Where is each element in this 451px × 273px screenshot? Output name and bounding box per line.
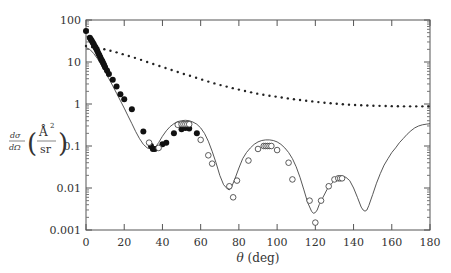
open-data-point	[246, 158, 252, 164]
svg-text:dΩ: dΩ	[9, 143, 21, 152]
dotted-curve-point	[238, 88, 240, 90]
theory-curve	[86, 48, 430, 214]
dotted-curve-point	[195, 77, 197, 79]
dotted-curve-point	[378, 105, 380, 107]
open-data-point	[186, 121, 192, 127]
x-tick-label: 80	[232, 236, 246, 249]
dotted-curve-point	[213, 82, 215, 84]
x-tick-label: 60	[194, 236, 208, 249]
open-data-point	[206, 153, 212, 159]
dotted-curve-point	[140, 59, 142, 61]
open-data-point	[269, 143, 275, 149]
open-data-point	[234, 178, 240, 184]
y-tick-label: 1	[74, 98, 81, 111]
dotted-curve-point	[201, 78, 203, 80]
svg-text:Å: Å	[38, 124, 48, 139]
open-data-point	[339, 176, 345, 182]
dotted-curve-point	[323, 102, 325, 104]
dotted-curve-point	[85, 45, 87, 47]
svg-text:(: (	[27, 128, 37, 158]
dotted-curve-point	[109, 50, 111, 52]
y-tick-label: 0.01	[57, 182, 82, 195]
x-tick-label: 40	[155, 236, 169, 249]
x-axis-ticks: 020406080100120140160180	[83, 20, 441, 249]
dotted-curve-point	[342, 103, 344, 105]
dotted-curve-point	[115, 51, 117, 53]
x-tick-label: 120	[305, 236, 326, 249]
dotted-curve-point	[391, 105, 393, 107]
filled-data-point	[163, 140, 169, 146]
filled-data-point	[171, 130, 177, 136]
dotted-curve-point	[384, 105, 386, 107]
dotted-curve-point	[311, 100, 313, 102]
cross-section-chart: 0.0010.010.1110100 020406080100120140160…	[0, 0, 451, 273]
dotted-curve-point	[348, 103, 350, 105]
y-axis-ticks: 0.0010.010.1110100	[50, 14, 431, 237]
dotted-curve-point	[354, 104, 356, 106]
dotted-curve-point	[128, 55, 130, 57]
dotted-curve-point	[409, 105, 411, 107]
dotted-curve-point	[121, 53, 123, 55]
filled-data-point	[129, 106, 135, 112]
dotted-curve-point	[207, 80, 209, 82]
x-tick-label: 0	[83, 236, 90, 249]
dotted-curve-point	[317, 101, 319, 103]
open-data-point	[290, 177, 296, 183]
dotted-curve-point	[305, 100, 307, 102]
data-series	[83, 28, 430, 225]
svg-text:sr: sr	[40, 143, 52, 156]
dotted-curve-point	[372, 105, 374, 107]
y-axis-label: dσ dΩ ( Å 2 sr )	[9, 122, 68, 158]
x-tick-label: 100	[267, 236, 288, 249]
open-data-point	[326, 183, 332, 189]
open-data-point	[146, 140, 152, 146]
filled-data-point	[194, 130, 200, 136]
svg-text:dσ: dσ	[10, 131, 21, 140]
dotted-curve-point	[158, 65, 160, 67]
dotted-curve-point	[299, 99, 301, 101]
filled-data-point	[83, 28, 89, 34]
dotted-curve-point	[262, 94, 264, 96]
open-data-point	[286, 160, 292, 166]
dotted-curve-point	[183, 73, 185, 75]
x-tick-label: 20	[117, 236, 131, 249]
dotted-curve-point	[256, 92, 258, 94]
open-data-point	[313, 220, 319, 226]
open-data-point	[230, 195, 236, 201]
dotted-curve-point	[250, 91, 252, 93]
x-tick-label: 140	[343, 236, 364, 249]
dotted-curve-point	[134, 57, 136, 59]
dotted-curve-point	[244, 90, 246, 92]
x-tick-label: 160	[381, 236, 402, 249]
filled-data-point	[106, 71, 112, 77]
dotted-curve-point	[146, 61, 148, 63]
dotted-curve-point	[421, 105, 423, 107]
dotted-curve-point	[293, 98, 295, 100]
dotted-curve-point	[360, 104, 362, 106]
x-tick-label: 180	[420, 236, 441, 249]
svg-text:2: 2	[50, 122, 54, 130]
dotted-curve-point	[189, 75, 191, 77]
dotted-curve-point	[268, 95, 270, 97]
dotted-curve-point	[329, 102, 331, 104]
dotted-curve-point	[177, 71, 179, 73]
open-data-point	[307, 198, 313, 204]
dotted-curve-point	[403, 105, 405, 107]
dotted-curve-point	[219, 84, 221, 86]
dotted-curve-point	[287, 97, 289, 99]
y-tick-label: 0.001	[50, 224, 82, 237]
open-data-point	[274, 147, 280, 153]
filled-data-point	[117, 91, 123, 97]
dotted-curve-point	[152, 63, 154, 65]
dotted-curve-point	[225, 85, 227, 87]
open-data-point	[198, 137, 204, 143]
dotted-curve-point	[170, 69, 172, 71]
open-data-point	[255, 146, 261, 152]
filled-data-point	[114, 84, 120, 90]
y-tick-label: 10	[67, 56, 81, 69]
x-axis-label: θ (deg)	[237, 251, 280, 265]
filled-data-point	[110, 77, 116, 83]
dotted-curve-point	[336, 103, 338, 105]
open-data-point	[318, 198, 324, 204]
filled-data-point	[140, 129, 146, 135]
